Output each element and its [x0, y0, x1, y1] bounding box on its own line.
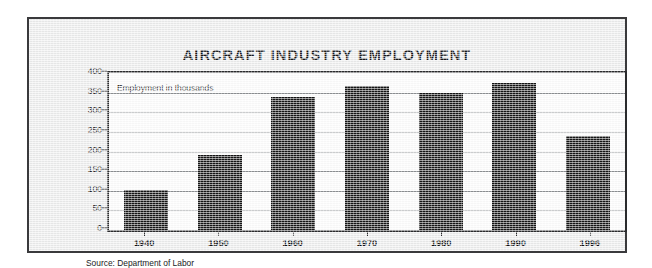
- x-axis-tick-label: 1980: [404, 238, 478, 248]
- bar-slot: [478, 73, 552, 230]
- x-axis-tick-mark: [218, 232, 219, 236]
- x-axis-tick-mark: [293, 232, 294, 236]
- bar: [345, 86, 389, 230]
- chart-figure: AIRCRAFT INDUSTRY EMPLOYMENT 05010015020…: [0, 0, 652, 268]
- y-axis-tick-label: 100: [88, 184, 102, 194]
- x-axis-tick-mark: [367, 232, 368, 236]
- bar: [566, 136, 610, 230]
- x-axis-tick-label: 1970: [330, 238, 404, 248]
- x-axis-tick-mark: [516, 232, 517, 236]
- y-axis-tick-label: 150: [88, 164, 102, 174]
- x-axis-slot: 1940: [107, 232, 181, 256]
- x-axis-slot: 1990: [478, 232, 552, 256]
- bar-slot: [183, 73, 257, 230]
- x-axis-tick-mark: [144, 232, 145, 236]
- y-axis-tick-label: 300: [88, 105, 102, 115]
- plot-area: Employment in thousands: [107, 71, 627, 232]
- bar-slot: [256, 73, 330, 230]
- y-axis-tick-label: 350: [88, 86, 102, 96]
- bar: [271, 97, 315, 230]
- bar-slot: [109, 73, 183, 230]
- bar: [492, 83, 536, 230]
- y-axis-tick-label: 200: [88, 145, 102, 155]
- chart-title: AIRCRAFT INDUSTRY EMPLOYMENT: [29, 47, 625, 63]
- y-axis-tick-label: 400: [88, 66, 102, 76]
- y-axis: 050100150200250300350400: [69, 71, 107, 232]
- x-axis-tick-mark: [441, 232, 442, 236]
- bar: [198, 155, 242, 230]
- x-axis-slot: 1980: [404, 232, 478, 256]
- x-axis-tick-label: 1960: [256, 238, 330, 248]
- x-axis-tick-label: 1990: [478, 238, 552, 248]
- y-axis-tick-label: 50: [92, 203, 102, 213]
- x-axis-tick-label: 1940: [107, 238, 181, 248]
- x-axis-tick-label: 1950: [181, 238, 255, 248]
- y-axis-tick-label: 250: [88, 125, 102, 135]
- x-axis-slot: 1970: [330, 232, 404, 256]
- bar-slot: [330, 73, 404, 230]
- x-axis-tick-mark: [590, 232, 591, 236]
- bar: [419, 93, 463, 230]
- scanned-page-frame: AIRCRAFT INDUSTRY EMPLOYMENT 05010015020…: [27, 17, 627, 253]
- x-axis-slot: 1996: [553, 232, 627, 256]
- source-note: Source: Department of Labor: [86, 258, 194, 268]
- x-axis-tick-label: 1996: [553, 238, 627, 248]
- x-axis: 1940195019601970198019901996: [107, 232, 627, 256]
- bar-series: [109, 73, 625, 230]
- bar-slot: [551, 73, 625, 230]
- bar: [124, 190, 168, 230]
- x-axis-slot: 1950: [181, 232, 255, 256]
- x-axis-slot: 1960: [256, 232, 330, 256]
- bar-slot: [404, 73, 478, 230]
